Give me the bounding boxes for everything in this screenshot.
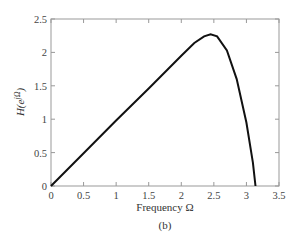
x-tick-label: 2 (179, 190, 184, 201)
x-tick-label: 1 (114, 190, 119, 201)
x-tick-label: 3.5 (272, 190, 285, 201)
plot-frame (51, 19, 279, 186)
y-tick-label: 2 (42, 47, 47, 58)
x-tick-label: 0 (48, 190, 53, 201)
tick-labels: 00.511.522.533.500.511.522.5 (34, 14, 286, 201)
y-tick-label: 1 (42, 114, 47, 125)
y-tick-label: 2.5 (34, 14, 47, 25)
chart: 00.511.522.533.500.511.522.5 Frequency Ω… (0, 0, 292, 241)
x-tick-label: 0.5 (77, 190, 90, 201)
figure-caption: (b) (159, 219, 172, 232)
y-tick-label: 1.5 (34, 81, 47, 92)
x-tick-label: 1.5 (142, 190, 155, 201)
y-tick-label: 0.5 (34, 148, 47, 159)
y-tick-label: 0 (42, 181, 47, 192)
series-line (51, 34, 256, 186)
y-axis-label: H(ejΩ) (13, 88, 27, 118)
svg-text:H(ejΩ): H(ejΩ) (13, 88, 27, 118)
x-axis-label: Frequency Ω (136, 201, 193, 213)
x-tick-label: 3 (244, 190, 249, 201)
x-tick-label: 2.5 (207, 190, 220, 201)
